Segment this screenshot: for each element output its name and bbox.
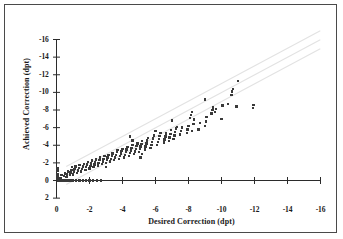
data-point [181,126,183,128]
data-point [163,141,165,143]
data-point [230,94,232,96]
data-point [204,98,206,100]
data-point [107,154,109,156]
data-point [169,133,171,135]
data-point [59,177,61,179]
data-point [227,103,229,105]
data-point [69,174,71,176]
data-point [205,120,207,122]
data-point [171,119,173,121]
x-tick-label: -4 [109,206,137,214]
data-point [78,167,80,169]
data-point [106,156,108,158]
data-point [168,136,170,138]
x-tick-label: -16 [307,206,335,214]
data-point [72,179,74,181]
data-point [231,90,233,92]
data-point [82,165,84,167]
y-tick-label: 0 [23,177,49,185]
data-point [154,130,156,132]
data-point [92,166,94,168]
data-point [86,163,88,165]
data-point [141,140,143,142]
data-point [88,179,90,181]
x-tick-label: 0 [43,206,71,214]
data-point [170,129,172,131]
data-point [96,179,98,181]
data-point [214,111,216,113]
data-point [106,159,108,161]
data-point [56,173,58,175]
data-point [72,173,74,175]
data-point [145,142,147,144]
data-point [180,130,182,132]
data-point [111,152,113,154]
data-point [78,164,80,166]
scatter-plot: -16-14-12-10-8-6-4-202 0-2-4-6-8-10-12-1… [0,0,343,239]
data-point [77,169,79,171]
data-point [84,169,86,171]
data-point [87,161,89,163]
data-point [165,132,167,134]
data-point [85,179,87,181]
data-point [176,126,178,128]
data-point [197,128,199,130]
data-point [135,148,137,150]
data-point [140,143,142,145]
data-point [124,154,126,156]
data-point [193,118,195,120]
data-point [92,179,94,181]
data-point [131,144,133,146]
data-point [131,139,133,141]
data-point [56,175,58,177]
data-point [150,144,152,146]
data-point [138,151,140,153]
data-point [74,165,76,167]
data-point [168,140,170,142]
data-point [125,148,127,150]
data-point [101,163,103,165]
data-point [146,139,148,141]
data-point [113,159,115,161]
data-point [144,148,146,150]
data-point [186,132,188,134]
data-point [133,153,135,155]
data-point [90,162,92,164]
data-point [147,137,149,139]
data-point [152,137,154,139]
data-point [103,155,105,157]
data-point [116,151,118,153]
reference-line-identity-plus-offset [66,31,321,168]
data-point [116,149,118,151]
x-tick-label: -14 [274,206,302,214]
data-point [95,158,97,160]
data-point [136,142,138,144]
data-point [105,166,107,168]
data-point [156,144,158,146]
data-point [89,165,91,167]
data-point [190,114,192,116]
data-point [210,112,212,114]
data-point [91,159,93,161]
data-point [172,138,174,140]
data-point [252,104,254,106]
data-point [119,155,121,157]
data-point [187,125,189,127]
data-point [232,88,234,90]
x-tick-label: -12 [241,206,269,214]
y-tick-label: -2 [23,159,49,167]
data-point [189,117,191,119]
data-point [98,159,100,161]
x-tick-label: -6 [142,206,170,214]
data-point [157,141,159,143]
data-point [56,167,58,169]
data-point [100,179,102,181]
data-point [173,134,175,136]
data-point [174,131,176,133]
data-point [76,172,78,174]
reference-line-identity-minus-offset [66,48,321,185]
data-point [139,148,141,150]
data-point [191,130,193,132]
data-point [85,166,87,168]
data-point [126,146,128,148]
